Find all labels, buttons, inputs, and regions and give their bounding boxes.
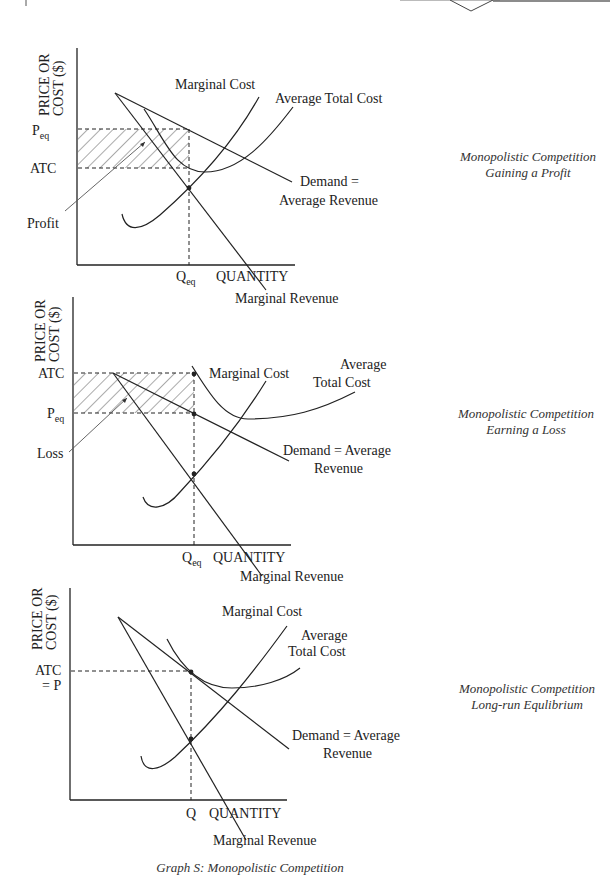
- y-axis-label-line2: COST ($): [47, 306, 63, 362]
- label-atc-line2: Total Cost: [313, 375, 371, 390]
- y-axis-label-line2: COST ($): [51, 60, 67, 116]
- label-atc-line1: Average: [301, 628, 347, 643]
- label-demand-line1: Demand = Average: [283, 443, 391, 458]
- label-marginal-revenue: Marginal Revenue: [213, 833, 317, 848]
- loss-area: [74, 373, 194, 413]
- y-axis-label-line2: COST ($): [44, 594, 60, 650]
- textbook-page: PRICE OR COST ($) Peq ATC Profit Qeq QUA…: [0, 0, 610, 885]
- caption-line2: Gaining a Profit: [485, 165, 571, 180]
- chart-long-run-equilibrium: PRICE OR COST ($) ATC = P Q QUANTITY Mar…: [30, 587, 595, 848]
- tick-atc: ATC: [38, 366, 64, 381]
- page-header-decoration: [26, 0, 610, 11]
- marginal-cost-curve: [141, 626, 287, 769]
- label-marginal-cost: Marginal Cost: [209, 366, 289, 381]
- x-axis-label: QUANTITY: [216, 269, 288, 284]
- profit-area: [78, 129, 189, 168]
- monopolistic-competition-figure: PRICE OR COST ($) Peq ATC Profit Qeq QUA…: [0, 0, 610, 885]
- tick-atc: ATC: [35, 663, 61, 678]
- tick-peq: Peq: [32, 123, 49, 141]
- label-atc-line2: Total Cost: [288, 644, 346, 659]
- y-axis-label-line1: PRICE OR: [30, 587, 45, 650]
- x-axis-label: QUANTITY: [213, 550, 285, 565]
- label-atc-line1: Average: [340, 357, 386, 372]
- caption-line1: Monopolistic Competition: [457, 406, 594, 421]
- label-marginal-cost: Marginal Cost: [175, 77, 255, 92]
- label-demand-line2: Average Revenue: [279, 193, 378, 208]
- tick-peq: Peq: [47, 406, 64, 424]
- label-average-total-cost: Average Total Cost: [275, 91, 382, 106]
- caption-line1: Monopolistic Competition: [459, 149, 596, 164]
- label-demand-line2: Revenue: [314, 461, 363, 476]
- label-demand-line1: Demand =: [300, 174, 359, 189]
- label-marginal-revenue: Marginal Revenue: [240, 569, 344, 584]
- tick-atc: ATC: [30, 161, 56, 176]
- profit-label: Profit: [27, 216, 59, 231]
- figure-caption: Graph S: Monopolistic Competition: [156, 860, 343, 875]
- caption-line2: Earning a Loss: [485, 422, 565, 437]
- chart-loss: PRICE OR COST ($) ATC Peq Loss Qeq QUANT…: [33, 297, 594, 584]
- caption-line2: Long-run Equlibrium: [470, 697, 583, 712]
- caption-line1: Monopolistic Competition: [458, 681, 595, 696]
- x-axis-label: QUANTITY: [209, 806, 281, 821]
- label-marginal-revenue: Marginal Revenue: [235, 291, 339, 306]
- loss-label: Loss: [37, 446, 63, 461]
- chart-profit: PRICE OR COST ($) Peq ATC Profit Qeq QUA…: [27, 48, 596, 306]
- average-total-cost-curve: [167, 639, 300, 688]
- y-axis-label-line1: PRICE OR: [37, 53, 52, 116]
- label-marginal-cost: Marginal Cost: [222, 604, 302, 619]
- tick-equals-p: = P: [42, 678, 61, 693]
- label-demand-line1: Demand = Average: [292, 728, 400, 743]
- y-axis-label-line1: PRICE OR: [33, 299, 48, 362]
- tick-qeq: Qeq: [176, 269, 196, 287]
- label-demand-line2: Revenue: [323, 746, 372, 761]
- tick-q: Q: [186, 806, 196, 821]
- tick-qeq: Qeq: [182, 550, 202, 568]
